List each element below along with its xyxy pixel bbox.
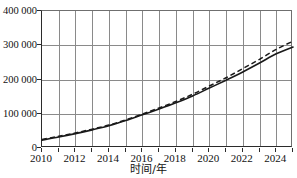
plot-area [41, 10, 292, 147]
x-axis-tick [259, 148, 260, 152]
y-axis-tick [37, 44, 41, 45]
y-tick-label: 300 000 [3, 39, 37, 50]
y-axis-tick [37, 113, 41, 114]
x-axis-title: 时间/年 [0, 160, 297, 176]
y-axis-tick [37, 10, 41, 11]
y-tick-label: 200 000 [3, 73, 37, 84]
x-axis-tick [58, 148, 59, 152]
x-axis-tick [225, 148, 226, 152]
y-tick-label: 100 000 [3, 107, 37, 118]
y-tick-label: 400 000 [3, 5, 37, 16]
y-axis-tick [37, 79, 41, 80]
chart-figure: 0 100 000 200 000 300 000 400 000 201020… [0, 0, 297, 178]
series-layer [42, 11, 293, 148]
x-axis-tick [192, 148, 193, 152]
x-axis-tick [158, 148, 159, 152]
x-axis-tick [91, 148, 92, 152]
x-axis-tick [125, 148, 126, 152]
x-axis-tick [292, 148, 293, 152]
dashed-curve-path [42, 41, 293, 139]
y-axis-tick [37, 147, 41, 148]
